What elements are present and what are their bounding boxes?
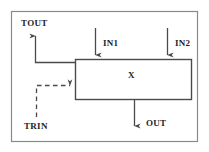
signal-label-tout: TOUT: [21, 19, 48, 28]
signal-label-in1: IN1: [103, 39, 118, 48]
signal-label-trin: TRIN: [24, 122, 48, 131]
tout-connector: [36, 36, 76, 63]
trin-connector: [37, 86, 71, 118]
signal-label-in2: IN2: [175, 39, 190, 48]
signal-label-out: OUT: [146, 119, 166, 128]
block-label-x: X: [128, 71, 135, 80]
diagram-canvas: TOUT TRIN IN1 IN2 OUT X: [0, 0, 209, 152]
